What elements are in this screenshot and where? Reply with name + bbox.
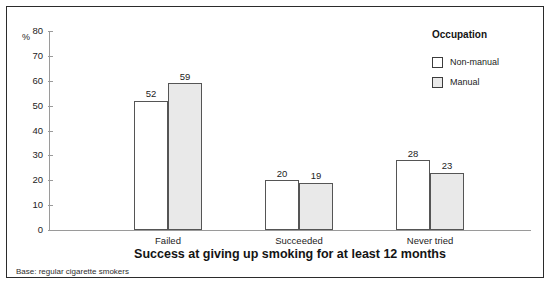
bar: 19 [299, 183, 333, 230]
y-axis-tick-label: 20 [32, 176, 43, 186]
legend-item-label: Manual [450, 78, 480, 87]
bar: 52 [134, 101, 168, 230]
legend-swatch-icon [432, 77, 443, 88]
y-axis-tick-label: 80 [32, 26, 43, 36]
y-axis-tick-mark [48, 230, 53, 231]
y-axis-tick-label: 10 [32, 200, 43, 210]
y-axis-tick-mark [48, 155, 53, 156]
y-axis-tick-label: 40 [32, 126, 43, 136]
y-axis-unit-label: % [22, 33, 30, 42]
legend-title: Occupation [432, 30, 542, 40]
legend-item[interactable]: Non-manual [432, 57, 542, 68]
y-axis-tick-mark [48, 131, 53, 132]
y-axis-tick-mark [48, 106, 53, 107]
legend-items: Non-manualManual [432, 57, 542, 88]
bar-value-label: 59 [180, 72, 191, 82]
y-axis-tick-mark [48, 31, 53, 32]
y-axis-tick-label: 50 [32, 101, 43, 111]
y-axis-tick-mark [48, 81, 53, 82]
y-axis-tick-label: 70 [32, 51, 43, 61]
legend: Occupation Non-manualManual [432, 30, 542, 97]
legend-item-label: Non-manual [450, 58, 499, 67]
y-axis-tick-mark [48, 180, 53, 181]
bar-value-label: 52 [146, 89, 157, 99]
y-axis-tick-mark [48, 56, 53, 57]
bar: 23 [430, 173, 464, 230]
x-axis-category-label: Never tried [407, 236, 453, 246]
chart-figure: % 01020304050607080 525920192823 FailedS… [0, 0, 557, 296]
chart-footnote: Base: regular cigarette smokers [16, 268, 129, 276]
bar-value-label: 28 [408, 149, 419, 159]
bar-group: 5259 [134, 31, 202, 230]
y-axis-tick-label: 0 [38, 225, 43, 235]
bar: 28 [396, 160, 430, 230]
x-axis-line [49, 230, 531, 231]
y-axis-tick-mark [48, 205, 53, 206]
y-axis-tick-label: 60 [32, 76, 43, 86]
bar-value-label: 20 [277, 169, 288, 179]
bar-value-label: 19 [311, 171, 322, 181]
y-axis-tick-label: 30 [32, 151, 43, 161]
x-axis-category-label: Failed [155, 236, 181, 246]
legend-swatch-icon [432, 57, 443, 68]
chart-title: Success at giving up smoking for at leas… [49, 248, 531, 261]
bar: 20 [265, 180, 299, 230]
legend-item[interactable]: Manual [432, 77, 542, 88]
bar-group: 2019 [265, 31, 333, 230]
bar: 59 [168, 83, 202, 230]
bar-value-label: 23 [442, 161, 453, 171]
x-axis-category-label: Succeeded [275, 236, 323, 246]
